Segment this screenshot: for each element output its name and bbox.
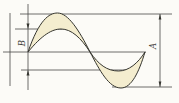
waveform-figure: B A — [0, 0, 179, 103]
left-dimension-label: B — [17, 40, 27, 47]
right-dimension-label: A — [148, 43, 158, 50]
diagram-canvas: B A — [0, 0, 179, 103]
